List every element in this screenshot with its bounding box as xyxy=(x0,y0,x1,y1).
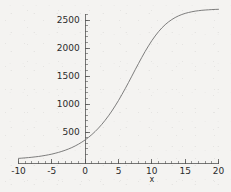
y-axis-tick-label: 1500 xyxy=(57,71,80,81)
x-axis-major-ticks xyxy=(19,159,219,164)
y-axis-tick-labels: 5001000150020002500 xyxy=(57,15,80,137)
x-axis-tick-label: 15 xyxy=(179,166,190,176)
x-axis-title: x xyxy=(149,175,154,184)
y-axis-tick-label: 2000 xyxy=(57,43,80,53)
x-axis-tick-label: 20 xyxy=(213,166,225,176)
data-series-logistic xyxy=(19,9,219,158)
x-axis-tick-label: -10 xyxy=(11,166,26,176)
chart-plot-area: -10-505101520 5001000150020002500 x xyxy=(0,0,231,192)
y-axis-tick-label: 500 xyxy=(62,127,79,137)
y-axis-tick-label: 1000 xyxy=(57,99,80,109)
chart-svg: -10-505101520 5001000150020002500 x xyxy=(0,0,231,192)
x-axis-tick-labels: -10-505101520 xyxy=(11,166,224,176)
x-axis-tick-label: -5 xyxy=(47,166,56,176)
x-axis-tick-label: 0 xyxy=(82,166,88,176)
x-axis-tick-label: 5 xyxy=(116,166,122,176)
y-axis-tick-label: 2500 xyxy=(57,15,80,25)
